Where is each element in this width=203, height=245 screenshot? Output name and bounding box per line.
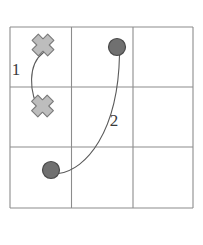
arc-2-label: 2	[110, 111, 119, 130]
figure-container: 12	[0, 0, 203, 245]
diagram-canvas: 12	[0, 0, 203, 245]
arc-1-label: 1	[12, 60, 21, 79]
dot-marker-1	[109, 39, 126, 56]
dot-marker-2	[43, 162, 60, 179]
